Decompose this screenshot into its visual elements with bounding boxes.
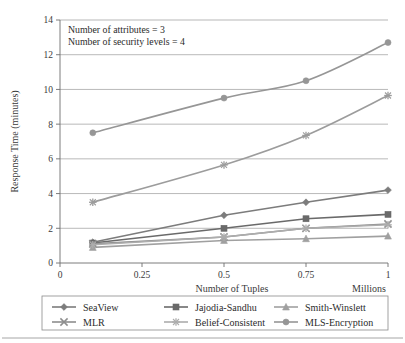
marker-star	[220, 161, 228, 169]
x-tick-label-2: 0.5	[218, 270, 230, 280]
marker-diamond	[221, 212, 228, 219]
y-tick-label-0: 0	[48, 258, 53, 268]
marker-star	[89, 198, 97, 206]
marker-star	[89, 241, 97, 249]
y-tick-label-4: 4	[48, 189, 53, 199]
y-axis-title: Response Time (minutes)	[9, 90, 21, 192]
y-tick-label-6: 6	[48, 154, 53, 164]
marker-diamond	[385, 187, 392, 194]
x-axis-ticks: 00.250.50.751	[58, 263, 391, 280]
circle-marker	[221, 95, 227, 101]
series-mls-encryption	[90, 40, 391, 136]
circle-marker	[90, 130, 96, 136]
series-path	[93, 225, 388, 245]
chart-figure: 02468101214 00.250.50.751 Number of attr…	[0, 0, 405, 343]
marker-star	[384, 221, 392, 229]
series-path	[93, 96, 388, 203]
legend-entry-smith-winslett[interactable]: Smith-Winslett	[274, 302, 366, 313]
marker-circle	[221, 95, 227, 101]
y-tick-label-8: 8	[48, 120, 53, 130]
legend-entry-jajodia-sandhu[interactable]: Jajodia-Sandhu	[164, 302, 257, 313]
legend-entry-mlr[interactable]: MLR	[52, 317, 105, 328]
y-tick-label-14: 14	[44, 15, 54, 25]
circle-marker	[385, 40, 391, 46]
marker-square	[173, 304, 179, 310]
x-tick-label-3: 0.75	[298, 270, 315, 280]
legend-label: Belief-Consistent	[195, 317, 265, 328]
y-tick-label-2: 2	[48, 224, 53, 234]
diamond-marker	[303, 199, 310, 206]
annotation-line-0: Number of attributes = 3	[68, 24, 165, 35]
diamond-marker	[61, 304, 68, 311]
marker-star	[384, 92, 392, 100]
y-tick-label-12: 12	[44, 50, 54, 60]
legend-label: Smith-Winslett	[305, 302, 366, 313]
marker-square	[221, 225, 227, 231]
x-tick-label-0: 0	[58, 270, 63, 280]
x-axis-unit-label: Millions	[352, 283, 386, 294]
axis-labels: Response Time (minutes)Number of TuplesM…	[9, 90, 386, 294]
marker-star	[302, 132, 310, 140]
square-marker	[303, 216, 309, 222]
data-series-group	[89, 40, 392, 251]
annotation-box: Number of attributes = 3Number of securi…	[64, 22, 216, 52]
marker-star	[172, 318, 180, 326]
x-tick-label-4: 1	[386, 270, 391, 280]
marker-circle	[303, 78, 309, 84]
circle-marker	[303, 78, 309, 84]
line-chart: 02468101214 00.250.50.751 Number of attr…	[0, 0, 405, 343]
square-marker	[385, 211, 391, 217]
marker-star	[220, 233, 228, 241]
marker-square	[385, 211, 391, 217]
y-axis-ticks: 02468101214	[44, 15, 61, 268]
legend-entry-belief-consistent[interactable]: Belief-Consistent	[164, 317, 265, 328]
square-marker	[173, 304, 179, 310]
legend-entry-mls-encryption[interactable]: MLS-Encryption	[274, 317, 373, 328]
legend-label: SeaView	[83, 302, 119, 313]
marker-diamond	[303, 199, 310, 206]
y-tick-label-10: 10	[44, 85, 54, 95]
marker-star	[302, 224, 310, 232]
legend-label: MLR	[83, 317, 105, 328]
series-path	[93, 214, 388, 243]
marker-circle	[385, 40, 391, 46]
x-axis-title: Number of Tuples	[196, 283, 269, 294]
marker-diamond	[61, 304, 68, 311]
diamond-marker	[221, 212, 228, 219]
marker-circle	[283, 319, 289, 325]
marker-square	[303, 216, 309, 222]
series-path	[93, 43, 388, 133]
square-marker	[221, 225, 227, 231]
annotation-line-1: Number of security levels = 4	[68, 36, 185, 47]
legend-label: MLS-Encryption	[305, 317, 373, 328]
chart-legend: SeaViewJajodia-SandhuSmith-WinslettMLRBe…	[42, 296, 388, 330]
legend-label: Jajodia-Sandhu	[195, 302, 257, 313]
circle-marker	[283, 319, 289, 325]
marker-circle	[90, 130, 96, 136]
diamond-marker	[385, 187, 392, 194]
series-mlr-upper	[89, 92, 392, 206]
legend-entry-seaview[interactable]: SeaView	[52, 302, 119, 313]
x-tick-label-1: 0.25	[134, 270, 151, 280]
